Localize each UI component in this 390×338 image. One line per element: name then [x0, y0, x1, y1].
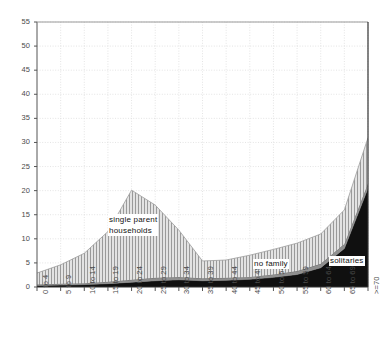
annotation-line-1: no family — [254, 259, 288, 269]
x-tick-label: 15 to 19 — [111, 266, 120, 294]
x-tick-label: 45 to 49 — [253, 266, 262, 294]
x-tick-label: 35 to 39 — [206, 266, 215, 294]
clipped-top-text — [0, 0, 390, 5]
annotation-single-parent-households: single parenthouseholds — [108, 214, 158, 236]
y-tick-label: 5 — [8, 258, 30, 267]
annotation-line-2: households — [109, 225, 157, 236]
y-tick-label: 40 — [8, 89, 30, 98]
x-tick-label: 10 to 14 — [88, 266, 97, 294]
annotation-line-1: solitaries — [330, 256, 364, 266]
y-tick-label: 50 — [8, 41, 30, 50]
annotation-no-family: no family — [253, 259, 289, 269]
annotation-line-1: single parent — [109, 214, 157, 225]
y-tick-label: 35 — [8, 113, 30, 122]
annotation-solitaries: solitaries — [329, 256, 365, 266]
x-tick-label: 25 to 29 — [159, 266, 168, 294]
y-tick-label: 15 — [8, 210, 30, 219]
y-tick-label: 0 — [8, 282, 30, 291]
x-tick-label: 20 to 24 — [135, 266, 144, 294]
y-tick-label: 20 — [8, 186, 30, 195]
area-single-parent-households — [37, 138, 368, 285]
x-axis-ticks — [37, 287, 368, 291]
x-tick-label: 50 to 54 — [277, 266, 286, 294]
stacked-area-chart: 5550454035302520151050 0 to 45 to 910 to… — [0, 0, 390, 338]
y-tick-label: 55 — [8, 17, 30, 26]
y-tick-label: 25 — [8, 162, 30, 171]
x-tick-label: 5 to 9 — [64, 275, 73, 294]
x-tick-label: 55 to 59 — [301, 266, 310, 294]
x-tick-label: 30 to 34 — [182, 266, 191, 294]
x-tick-label: 40 to 44 — [230, 266, 239, 294]
x-tick-label: 65 to 69 — [348, 266, 357, 294]
x-tick-label: >=70 — [372, 276, 381, 294]
y-tick-label: 10 — [8, 234, 30, 243]
x-tick-label: 0 to 4 — [41, 275, 50, 294]
y-tick-label: 30 — [8, 137, 30, 146]
x-tick-label: 60 to 64 — [324, 266, 333, 294]
y-tick-label: 45 — [8, 65, 30, 74]
